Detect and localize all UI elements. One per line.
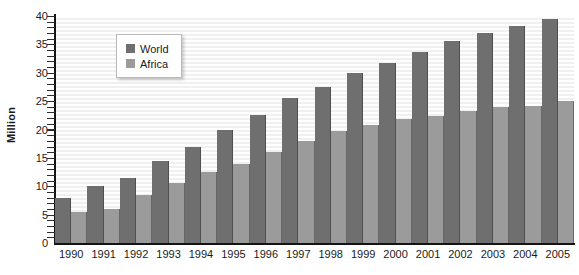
bar-africa-1990 xyxy=(71,212,87,243)
bar-world-2004 xyxy=(509,26,525,243)
x-axis-line xyxy=(54,243,575,245)
bar-world-2005 xyxy=(542,19,558,243)
year-group xyxy=(315,16,347,243)
bar-africa-1996 xyxy=(266,152,282,243)
x-axis-tick-label: 2001 xyxy=(412,248,444,270)
bar-world-1993 xyxy=(152,161,168,243)
year-group xyxy=(282,16,314,243)
bar-world-2003 xyxy=(477,33,493,243)
x-axis-tick-label: 1997 xyxy=(282,248,314,270)
y-axis-minor-ticks xyxy=(47,16,55,243)
x-axis-tick-labels: 1990199119921993199419951996199719981999… xyxy=(55,248,574,270)
bar-africa-2004 xyxy=(525,106,541,243)
bar-africa-1999 xyxy=(363,125,379,243)
bar-africa-2002 xyxy=(460,111,476,243)
x-axis-tick-label: 1992 xyxy=(120,248,152,270)
year-group xyxy=(55,16,87,243)
legend-swatch-icon xyxy=(126,59,135,68)
y-axis-title: Million xyxy=(0,0,22,249)
bar-world-1991 xyxy=(87,186,103,243)
bar-world-1994 xyxy=(185,147,201,243)
bar-africa-2000 xyxy=(396,119,412,243)
bar-chart: Million 4035302520151050 199019911992199… xyxy=(0,0,579,275)
year-group xyxy=(477,16,509,243)
bar-world-1996 xyxy=(250,115,266,243)
legend-entry-world: World xyxy=(126,41,169,56)
bar-world-1995 xyxy=(217,130,233,244)
bar-africa-1998 xyxy=(331,131,347,243)
bar-world-1992 xyxy=(120,178,136,243)
year-group xyxy=(250,16,282,243)
legend-label: World xyxy=(140,43,169,55)
bar-africa-1997 xyxy=(298,141,314,243)
bar-world-1997 xyxy=(282,98,298,243)
x-axis-tick-label: 2003 xyxy=(477,248,509,270)
year-group xyxy=(412,16,444,243)
legend-entry-africa: Africa xyxy=(126,56,169,71)
year-group xyxy=(217,16,249,243)
bar-world-2001 xyxy=(412,52,428,243)
x-axis-tick-label: 1993 xyxy=(152,248,184,270)
bar-africa-2001 xyxy=(428,116,444,243)
x-axis-tick-label: 2000 xyxy=(379,248,411,270)
legend-swatch-icon xyxy=(126,44,135,53)
year-group xyxy=(509,16,541,243)
x-axis-tick-label: 1996 xyxy=(250,248,282,270)
legend-label: Africa xyxy=(140,58,168,70)
bar-world-1998 xyxy=(315,87,331,243)
year-group xyxy=(542,16,574,243)
year-group xyxy=(444,16,476,243)
chart-legend: WorldAfrica xyxy=(116,34,182,78)
x-axis-tick-label: 1999 xyxy=(347,248,379,270)
year-group xyxy=(379,16,411,243)
year-group xyxy=(87,16,119,243)
bar-world-1990 xyxy=(55,198,71,243)
bar-africa-1994 xyxy=(201,172,217,243)
x-axis-tick-label: 2004 xyxy=(509,248,541,270)
year-group xyxy=(185,16,217,243)
x-axis-tick-label: 1990 xyxy=(55,248,87,270)
bar-africa-2005 xyxy=(558,101,574,243)
bar-world-2002 xyxy=(444,41,460,243)
x-axis-tick-label: 1995 xyxy=(217,248,249,270)
bar-africa-2003 xyxy=(493,107,509,243)
y-axis-title-label: Million xyxy=(5,106,17,142)
x-axis-tick-label: 1991 xyxy=(87,248,119,270)
year-group xyxy=(347,16,379,243)
bar-africa-1991 xyxy=(104,209,120,243)
x-axis-tick-label: 2005 xyxy=(542,248,574,270)
bar-africa-1993 xyxy=(169,183,185,243)
bar-world-2000 xyxy=(379,63,395,243)
x-axis-tick-label: 2002 xyxy=(444,248,476,270)
bar-africa-1992 xyxy=(136,195,152,243)
bar-africa-1995 xyxy=(233,164,249,243)
bar-world-1999 xyxy=(347,73,363,243)
x-axis-tick-label: 1998 xyxy=(315,248,347,270)
x-axis-tick-label: 1994 xyxy=(185,248,217,270)
